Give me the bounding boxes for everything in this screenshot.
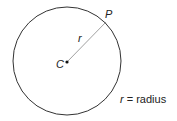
caption-text: = radius [124,93,167,105]
caption: r = radius [120,93,167,105]
radius-label: r [78,32,83,44]
circle-diagram: C P r r = radius [0,0,177,121]
center-label: C [56,58,64,70]
radius-segment [67,22,106,62]
center-point [65,60,68,63]
point-label: P [105,8,113,20]
